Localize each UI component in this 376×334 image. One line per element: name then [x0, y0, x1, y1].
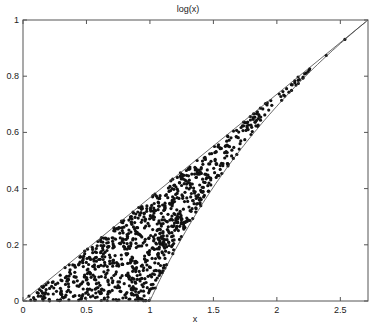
y-axis-ticks: 00.20.40.60.81 [6, 15, 368, 306]
scatter-points [27, 38, 346, 303]
y-tick-label: 0.2 [6, 240, 19, 250]
boundary-curves [23, 20, 368, 301]
y-tick-label: 0.4 [6, 184, 19, 194]
scatter-chart: log(x) 00.511.522.5 00.20.40.60.81 x [0, 0, 376, 334]
x-tick-label: 2 [274, 305, 279, 315]
upper-boundary-line [23, 20, 368, 301]
y-tick-label: 0.8 [6, 71, 19, 81]
y-tick-label: 0 [14, 296, 19, 306]
x-axis-label: x [193, 314, 198, 324]
x-tick-label: 1 [147, 305, 152, 315]
y-tick-label: 0.6 [6, 127, 19, 137]
y-tick-label: 1 [14, 15, 19, 25]
x-tick-label: 0.5 [80, 305, 93, 315]
x-tick-label: 0 [20, 305, 25, 315]
x-tick-label: 2.5 [334, 305, 347, 315]
x-tick-label: 1.5 [207, 305, 220, 315]
chart-title: log(x) [177, 4, 200, 14]
